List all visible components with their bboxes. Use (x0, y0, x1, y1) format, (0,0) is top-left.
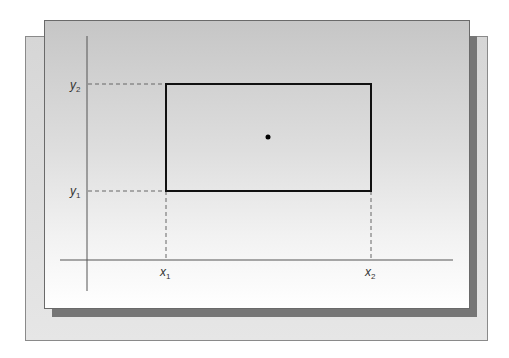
center-point (266, 135, 271, 140)
y2-label: y2 (69, 78, 81, 94)
x1-label: x1 (159, 265, 171, 281)
y1-label: y1 (69, 184, 81, 200)
diagram-canvas: y2 y1 x1 x2 (0, 0, 509, 358)
guide-lines (88, 84, 371, 260)
x2-label: x2 (364, 265, 376, 281)
